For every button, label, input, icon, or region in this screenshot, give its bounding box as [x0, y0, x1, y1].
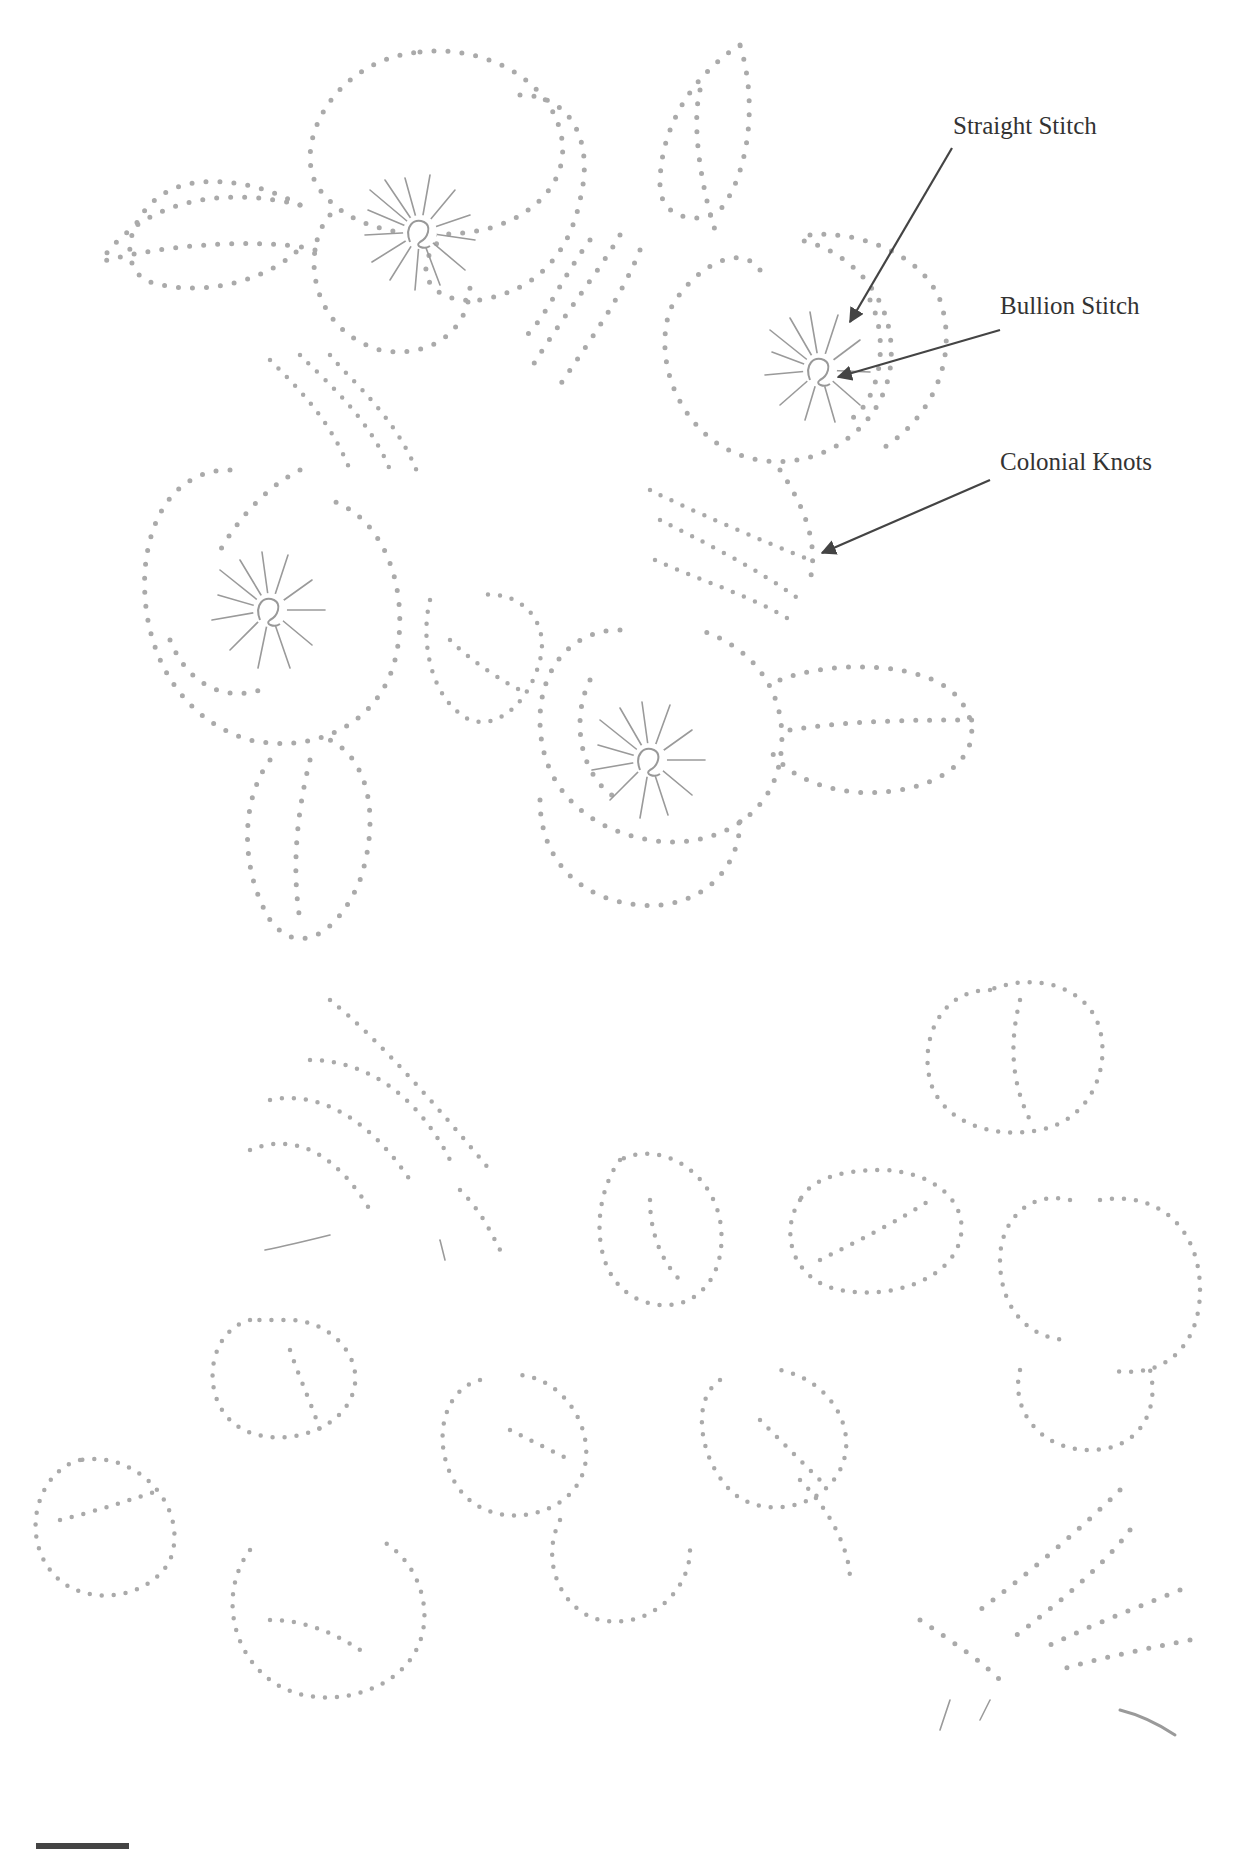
leader-colonial-knots [822, 480, 990, 553]
leader-bullion-stitch [838, 330, 1000, 377]
straight-stitch-center [592, 702, 705, 818]
flower-top-right [520, 45, 946, 580]
leader-straight-stitch [850, 148, 952, 322]
flower-top-left [100, 51, 584, 352]
straight-stitch-center [365, 175, 475, 290]
flower-mid-left [145, 470, 400, 939]
embroidery-pattern [0, 0, 1244, 1849]
label-straight-stitch: Straight Stitch [953, 112, 1097, 140]
straight-stitch-center [212, 552, 325, 668]
scale-bar [36, 1843, 129, 1849]
bottom-spray [36, 982, 1200, 1735]
flower-center [540, 630, 975, 905]
label-colonial-knots: Colonial Knots [1000, 448, 1152, 476]
label-bullion-stitch: Bullion Stitch [1000, 292, 1140, 320]
straight-stitch-center [765, 312, 870, 422]
annotation-leaders [822, 148, 1000, 553]
top-bouquet [100, 45, 975, 939]
